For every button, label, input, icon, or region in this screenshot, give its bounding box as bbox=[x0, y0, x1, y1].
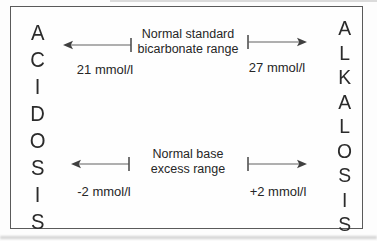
bicarbonate-range-label-line1: Normal standard bbox=[132, 27, 244, 42]
scan-artifact-top bbox=[110, 0, 377, 2]
base-excess-low-value: -2 mmol/l bbox=[68, 184, 140, 199]
base-excess-range-label-line2: excess range bbox=[132, 162, 244, 177]
figure-canvas: ACIDOSIS ALKALOSIS Normal standard bicar… bbox=[0, 0, 377, 241]
base-excess-high-arrow-right-icon bbox=[246, 155, 308, 173]
base-excess-low-arrow-left-icon bbox=[70, 155, 132, 173]
bicarbonate-range-label: Normal standard bicarbonate range bbox=[132, 27, 244, 57]
base-excess-range-label: Normal base excess range bbox=[132, 147, 244, 177]
bicarbonate-high-value: 27 mmol/l bbox=[241, 60, 313, 75]
bicarbonate-low-arrow-left-icon bbox=[62, 36, 134, 54]
bicarbonate-high-arrow-right-icon bbox=[246, 33, 308, 51]
bicarbonate-range-label-line2: bicarbonate range bbox=[132, 42, 244, 57]
base-excess-range-label-line1: Normal base bbox=[132, 147, 244, 162]
bicarbonate-low-value: 21 mmol/l bbox=[69, 62, 141, 77]
scan-artifact-bottom bbox=[0, 236, 377, 239]
alkalosis-label: ALKALOSIS bbox=[334, 16, 355, 237]
base-excess-high-value: +2 mmol/l bbox=[242, 184, 314, 199]
acidosis-label: ACIDOSIS bbox=[26, 20, 48, 236]
